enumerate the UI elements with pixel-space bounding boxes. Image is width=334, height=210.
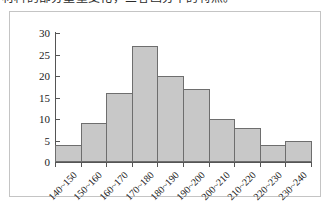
caption-text: 材料的部分重量变化，三者画分率的特点。: [2, 0, 236, 5]
histogram-bar: [260, 145, 287, 162]
y-tick-label-wrap: 15: [10, 93, 50, 104]
y-tick-label-wrap: 10: [10, 114, 50, 125]
x-tick: [285, 163, 286, 167]
chart-frame: 051015202530 140~150150~160160~170170~18…: [9, 11, 321, 197]
histogram-bar: [209, 119, 236, 162]
y-tick-label-wrap: 30: [10, 28, 50, 39]
y-tick-label-0: 0: [16, 157, 50, 168]
x-tick: [157, 163, 158, 167]
histogram-bar: [81, 123, 108, 162]
plot-area: [55, 33, 311, 162]
y-tick-label-wrap: 20: [10, 71, 50, 82]
y-tick-label-wrap: 0: [10, 157, 50, 168]
histogram-bar: [55, 145, 82, 162]
y-tick-label-10: 10: [16, 114, 50, 125]
histogram-bar: [234, 128, 261, 162]
y-tick-label-wrap: 5: [10, 136, 50, 147]
histogram-bar: [183, 89, 210, 162]
y-tick-label-15: 15: [16, 93, 50, 104]
histogram-bar: [285, 141, 312, 163]
x-tick: [260, 163, 261, 167]
x-tick: [106, 163, 107, 167]
x-tick: [55, 163, 56, 167]
x-tick: [234, 163, 235, 167]
histogram-bar: [106, 93, 133, 162]
x-tick: [311, 163, 312, 167]
y-tick-label-30: 30: [16, 28, 50, 39]
x-tick: [183, 163, 184, 167]
y-tick-label-5: 5: [16, 136, 50, 147]
clipped-caption-strip: 材料的部分重量变化，三者画分率的特点。: [0, 0, 334, 9]
histogram-bar: [157, 76, 184, 162]
x-tick: [132, 163, 133, 167]
histogram-bar: [132, 46, 159, 162]
y-tick-label-20: 20: [16, 71, 50, 82]
y-tick-label-wrap: 25: [10, 50, 50, 61]
x-tick: [209, 163, 210, 167]
x-tick: [81, 163, 82, 167]
y-tick-label-25: 25: [16, 50, 50, 61]
